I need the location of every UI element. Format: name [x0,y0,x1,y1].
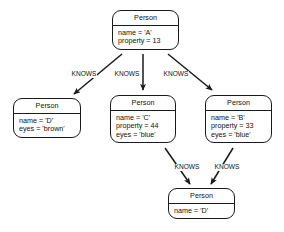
graph-node-d-bottom[interactable]: Person name = 'D' [168,188,235,219]
node-properties: name = 'D' eyes = 'brown' [14,114,80,137]
node-property: eyes = 'blue' [116,131,175,140]
node-label: Person [14,99,80,114]
node-properties: name = 'D' [169,204,234,218]
node-properties: name = 'A' property = 13 [113,26,178,49]
node-property: eyes = 'brown' [19,125,80,134]
graph-diagram: Person name = 'A' property = 13 Person n… [0,0,284,232]
edge-label-b-to-d-bottom: KNOWS [214,164,240,171]
node-label: Person [206,96,271,111]
node-label: Person [113,11,178,26]
graph-node-c[interactable]: Person name = 'C' property = 44 eyes = '… [110,95,176,143]
node-label: Person [169,189,234,204]
edge-label-c-to-d-bottom: KNOWS [174,164,200,171]
edge-label-a-to-c: KNOWS [114,71,140,78]
node-properties: name = 'C' property = 44 eyes = 'blue' [111,111,175,142]
node-properties: name = 'B' property = 33 eyes = 'blue' [206,111,271,142]
node-label: Person [111,96,175,111]
graph-node-b[interactable]: Person name = 'B' property = 33 eyes = '… [205,95,272,143]
node-property: property = 13 [118,37,178,46]
node-property: eyes = 'blue' [211,131,271,140]
edge-label-a-to-d-left: KNOWS [71,71,97,78]
graph-node-d-left[interactable]: Person name = 'D' eyes = 'brown' [13,98,81,138]
node-property: name = 'D' [174,207,234,216]
graph-node-a[interactable]: Person name = 'A' property = 13 [112,10,179,50]
edge-label-a-to-b: KNOWS [163,71,189,78]
